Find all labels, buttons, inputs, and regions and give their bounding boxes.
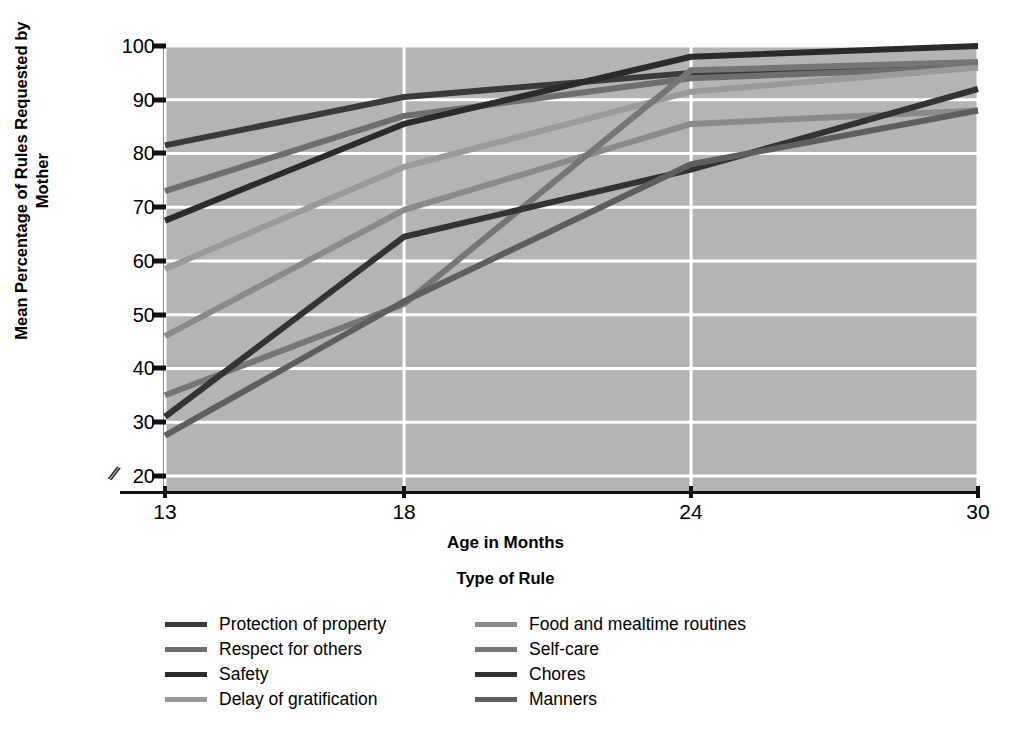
y-tick-label: 60 (95, 249, 155, 272)
legend-item[interactable]: Delay of gratification (165, 687, 435, 712)
x-axis-title: Age in Months (0, 533, 1011, 553)
x-tick-label: 24 (679, 500, 702, 524)
y-tick-label: 30 (95, 411, 155, 434)
legend-item[interactable]: Food and mealtime routines (475, 612, 775, 637)
legend-swatch-icon (475, 622, 517, 627)
legend-label: Protection of property (219, 614, 386, 635)
y-tick-label: 40 (95, 357, 155, 380)
y-tick-mark (152, 312, 166, 317)
y-tick-mark (152, 420, 166, 425)
y-tick-mark (152, 366, 166, 371)
series-line-5 (165, 62, 978, 395)
legend-label: Food and mealtime routines (529, 614, 746, 635)
x-tick-label: 18 (392, 500, 415, 524)
y-tick-label: 90 (95, 88, 155, 111)
y-tick-mark (152, 151, 166, 156)
y-tick-mark (152, 44, 166, 49)
x-tick-label: 30 (966, 500, 989, 524)
legend-item[interactable]: Safety (165, 662, 435, 687)
y-tick-label: 50 (95, 303, 155, 326)
y-tick-label: 80 (95, 142, 155, 165)
legend-label: Safety (219, 664, 269, 685)
legend-swatch-icon (475, 697, 517, 702)
legend-label: Chores (529, 664, 585, 685)
x-tick-label: 13 (153, 500, 176, 524)
legend-item[interactable]: Manners (475, 687, 775, 712)
y-tick-label: 20 (95, 464, 155, 487)
legend-item[interactable]: Respect for others (165, 637, 435, 662)
legend-swatch-icon (475, 647, 517, 652)
y-tick-mark (152, 97, 166, 102)
legend-swatch-icon (475, 672, 517, 677)
y-axis-title: Mean Percentage of Rules Requested by Mo… (11, 1, 52, 361)
line-chart: 2030405060708090100 13182430 // Mean Per… (0, 0, 1011, 750)
legend-title: Type of Rule (0, 569, 1011, 588)
x-tick-mark (976, 486, 980, 498)
x-tick-mark (689, 486, 693, 498)
data-lines (165, 46, 978, 436)
legend-swatch-icon (165, 672, 207, 677)
legend: Protection of propertyFood and mealtime … (165, 612, 865, 712)
legend-swatch-icon (165, 697, 207, 702)
y-tick-mark (152, 205, 166, 210)
legend-item[interactable]: Self-care (475, 637, 775, 662)
y-tick-mark (152, 258, 166, 263)
x-tick-mark (163, 486, 167, 498)
legend-label: Delay of gratification (219, 689, 378, 710)
legend-item[interactable]: Chores (475, 662, 775, 687)
legend-swatch-icon (165, 622, 207, 627)
y-tick-label: 70 (95, 196, 155, 219)
legend-label: Manners (529, 689, 597, 710)
legend-label: Self-care (529, 639, 599, 660)
y-tick-mark (152, 473, 166, 478)
legend-item[interactable]: Protection of property (165, 612, 435, 637)
legend-label: Respect for others (219, 639, 362, 660)
x-tick-mark (402, 486, 406, 498)
legend-swatch-icon (165, 647, 207, 652)
y-tick-label: 100 (95, 35, 155, 58)
